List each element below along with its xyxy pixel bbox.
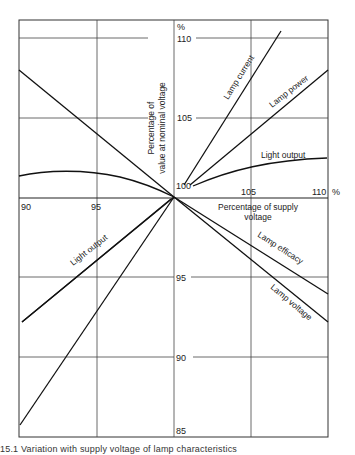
series-light-output-rise	[193, 158, 327, 186]
y-tick-110: 110	[177, 34, 191, 44]
y-axis-title: Percentage of value at nominal voltage	[146, 82, 167, 174]
x-tick-105: 105	[241, 187, 256, 197]
plot-frame	[19, 20, 328, 437]
series-light-output-curve	[19, 171, 174, 197]
vertical-gridlines	[97, 20, 251, 437]
x-percent-unit: %	[332, 187, 340, 197]
y-tick-95: 95	[176, 273, 186, 283]
x-tick-110: 110	[312, 187, 326, 197]
x-axis-title-line2: voltage	[244, 212, 272, 222]
label-lamp-voltage: Lamp voltage	[269, 282, 315, 323]
y-tick-85: 85	[176, 426, 186, 436]
label-light-output-upper: Light output	[261, 150, 306, 160]
y-tick-105: 105	[177, 113, 192, 123]
svg-text:Percentage of: Percentage of	[146, 101, 156, 155]
x-tick-90: 90	[21, 202, 31, 212]
figure-caption: 15.1 Variation with supply voltage of la…	[0, 444, 355, 455]
label-lamp-efficacy: Lamp efficacy	[256, 229, 306, 266]
chart: 110 105 100 95 90 85 % 90 95 105 110 % P…	[0, 0, 355, 445]
series-light-output-low-b	[22, 199, 171, 322]
svg-text:value at nominal voltage: value at nominal voltage	[157, 82, 167, 174]
y-tick-90: 90	[176, 353, 186, 363]
series-lamp-current-rise	[184, 31, 281, 185]
label-lamp-power: Lamp power	[267, 73, 310, 110]
y-percent-unit: %	[177, 22, 185, 32]
y-tick-100: 100	[176, 181, 191, 191]
series-lamp-power-rise	[190, 70, 328, 185]
x-tick-95: 95	[91, 202, 101, 212]
x-axis-title-line1: Percentage of supply	[218, 202, 299, 212]
label-light-output-lower: Light output	[68, 232, 110, 268]
